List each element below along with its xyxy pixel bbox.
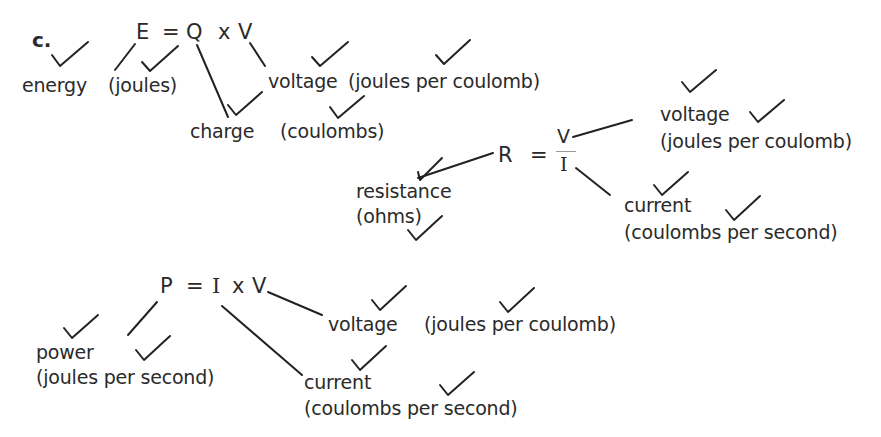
symbol-times: x [232,276,244,297]
term-voltage: voltage [268,72,338,91]
unit-joules-per-second: (joules per second) [36,368,214,387]
question-label: c. [32,30,51,50]
unit-coulombs-per-second: (coulombs per second) [624,223,838,242]
symbol-times: x [218,22,230,43]
symbol-v: V [238,22,252,43]
term-current: current [624,196,691,215]
symbol-e: E [136,22,149,43]
fraction-denominator: I [560,155,568,174]
term-current: current [304,373,371,392]
unit-ohms: (ohms) [356,207,422,226]
symbol-p: P [160,276,173,297]
term-voltage: voltage [660,105,730,124]
symbol-v: V [252,276,266,297]
symbol-equals: = [530,145,548,166]
unit-joules-per-coulomb: (joules per coulomb) [660,132,852,151]
fraction-numerator: V [557,127,570,146]
fraction-bar [556,151,576,152]
symbol-equals: = [162,22,180,43]
symbol-equals: = [186,276,204,297]
term-energy: energy [22,76,87,95]
unit-joules-per-coulomb: (joules per coulomb) [424,315,616,334]
unit-coulombs-per-second: (coulombs per second) [304,399,518,418]
symbol-r: R [498,145,513,166]
symbol-q: Q [186,22,203,43]
term-voltage: voltage [328,315,398,334]
term-resistance: resistance [356,182,451,201]
term-charge: charge [190,122,254,141]
unit-coulombs: (coulombs) [280,122,384,141]
term-power: power [36,343,94,362]
unit-joules: (joules) [108,76,177,95]
unit-joules-per-coulomb: (joules per coulomb) [348,72,540,91]
symbol-i: I [212,276,220,297]
